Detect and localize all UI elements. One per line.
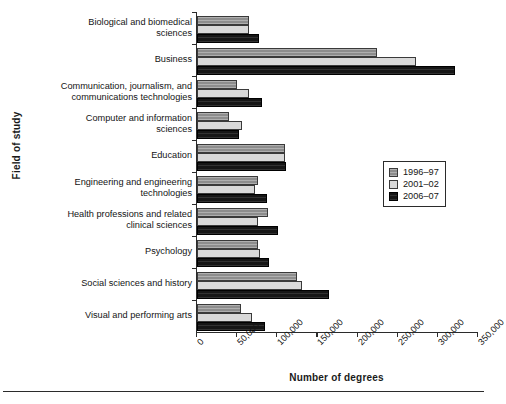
y-axis-tick — [192, 108, 197, 109]
category-label-line: Biological and biomedical — [20, 17, 192, 28]
category-label-line: Communication, journalism, and — [20, 81, 192, 92]
bar-2 — [197, 121, 242, 130]
bar-2 — [197, 153, 285, 162]
legend-swatch — [389, 168, 398, 177]
bar-3 — [197, 162, 286, 171]
bar-3 — [197, 130, 239, 139]
bar-3 — [197, 34, 259, 43]
bar-3 — [197, 98, 262, 107]
x-axis-tick — [397, 332, 398, 337]
legend-swatch — [389, 192, 398, 201]
bar-2 — [197, 89, 249, 98]
bar-1 — [197, 48, 377, 57]
bar-2 — [197, 217, 258, 226]
y-axis-tick — [192, 236, 197, 237]
y-axis-tick — [192, 204, 197, 205]
category-label-line: Business — [20, 54, 192, 65]
bar-1 — [197, 112, 229, 121]
bar-1 — [197, 16, 249, 25]
category-label-line: Visual and performing arts — [20, 310, 192, 321]
category-label-line: sciences — [20, 124, 192, 135]
bar-1 — [197, 80, 237, 89]
bar-3 — [197, 258, 269, 267]
category-label-line: Psychology — [20, 246, 192, 257]
chart-legend: 1996–972001–022006–07 — [383, 161, 446, 207]
y-axis-tick — [192, 300, 197, 301]
category-label: Health professions and relatedclinical s… — [20, 209, 192, 232]
bar-2 — [197, 57, 416, 66]
category-label-line: Computer and information — [20, 113, 192, 124]
bar-2 — [197, 249, 260, 258]
category-label-line: sciences — [20, 28, 192, 39]
category-axis-labels: Biological and biomedicalsciencesBusines… — [22, 12, 192, 332]
category-label-line: technologies — [20, 188, 192, 199]
category-label: Biological and biomedicalsciences — [20, 17, 192, 40]
category-label-line: communications technologies — [20, 92, 192, 103]
bar-3 — [197, 66, 455, 75]
bar-2 — [197, 25, 249, 34]
bar-1 — [197, 240, 258, 249]
legend-item: 1996–97 — [389, 166, 439, 178]
legend-item: 2001–02 — [389, 178, 439, 190]
legend-label: 1996–97 — [403, 167, 439, 177]
bar-3 — [197, 194, 267, 203]
bar-2 — [197, 281, 302, 290]
y-axis-tick — [192, 268, 197, 269]
category-label-line: Health professions and related — [20, 209, 192, 220]
bar-3 — [197, 290, 329, 299]
category-label-line: Social sciences and history — [20, 278, 192, 289]
x-axis-title: Number of degrees — [196, 372, 477, 383]
x-axis-tick — [357, 332, 358, 337]
category-label-line: clinical sciences — [20, 220, 192, 231]
category-label-line: Engineering and engineering — [20, 177, 192, 188]
bar-2 — [197, 185, 255, 194]
legend-label: 2001–02 — [403, 179, 439, 189]
bar-3 — [197, 226, 278, 235]
category-label: Psychology — [20, 246, 192, 257]
bar-1 — [197, 144, 285, 153]
y-axis-tick — [192, 76, 197, 77]
bar-1 — [197, 304, 241, 313]
x-axis-tick-label: 350,000 — [476, 317, 506, 347]
legend-label: 2006–07 — [403, 191, 439, 201]
category-label-line: Education — [20, 150, 192, 161]
bar-1 — [197, 208, 268, 217]
bar-2 — [197, 313, 252, 322]
category-label: Communication, journalism, andcommunicat… — [20, 81, 192, 104]
y-axis-tick — [192, 140, 197, 141]
category-label: Business — [20, 54, 192, 65]
legend-swatch — [389, 180, 398, 189]
category-label: Engineering and engineeringtechnologies — [20, 177, 192, 200]
y-axis-tick — [192, 172, 197, 173]
footer-divider — [3, 391, 484, 392]
bar-1 — [197, 176, 258, 185]
x-axis-tick-label: 0 — [195, 336, 206, 347]
category-label: Social sciences and history — [20, 278, 192, 289]
legend-item: 2006–07 — [389, 190, 439, 202]
bar-1 — [197, 272, 297, 281]
category-label: Visual and performing arts — [20, 310, 192, 321]
category-label: Computer and informationsciences — [20, 113, 192, 136]
y-axis-tick — [192, 12, 197, 13]
y-axis-tick — [192, 44, 197, 45]
category-label: Education — [20, 150, 192, 161]
